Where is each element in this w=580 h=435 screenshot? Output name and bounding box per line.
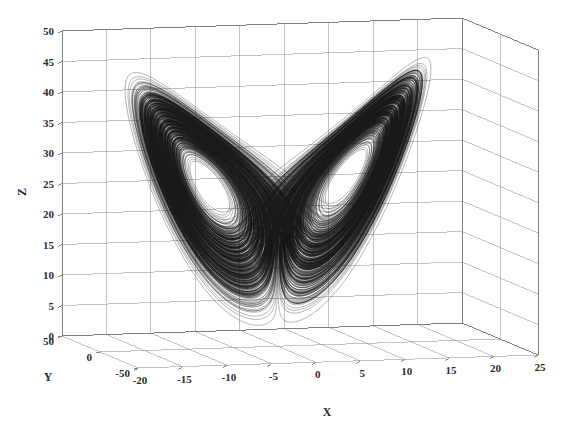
x-tick-label: -20 [133,374,148,386]
x-tick-label: 15 [446,364,458,376]
z-tick-label: 50 [43,25,55,37]
x-tick-label: -5 [269,370,279,382]
z-tick-label: 10 [43,269,55,281]
x-tick-label: 10 [401,365,413,377]
z-tick-label: 40 [43,86,55,98]
x-tick-label: 25 [535,361,547,373]
x-tick-label: 20 [490,362,502,374]
x-tick-label: -10 [222,371,237,383]
z-tick-label: 15 [43,239,55,251]
z-tick-label: 25 [43,178,55,190]
y-tick-label: -50 [115,367,130,379]
x-tick-label: 0 [315,368,321,380]
z-tick-label: 30 [43,147,55,159]
z-tick-label: 5 [49,300,55,312]
plot-canvas: 05101520253035404550-20-15-10-5051015202… [0,0,580,435]
z-tick-label: 35 [43,117,55,129]
lorenz-attractor-figure: 05101520253035404550-20-15-10-5051015202… [0,0,580,435]
x-axis-label: X [323,405,332,419]
y-axis-label: Y [44,370,53,384]
y-tick-label: 50 [43,335,55,347]
y-tick-label: 0 [87,351,93,363]
z-tick-label: 45 [43,56,55,68]
z-tick-label: 20 [43,208,55,220]
z-axis-label: Z [15,188,29,196]
x-tick-label: -15 [177,373,192,385]
x-tick-label: 5 [359,367,365,379]
